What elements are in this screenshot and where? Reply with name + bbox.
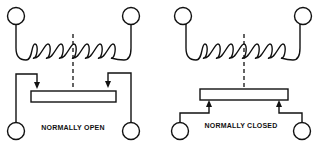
coil-terminal-top-left xyxy=(175,8,192,25)
contact-arrow-left-icon xyxy=(34,82,40,89)
coil-winding xyxy=(186,24,300,60)
relay-contacts-diagram: NORMALLY OPEN NORMALLY CLOSED xyxy=(0,0,319,151)
label-normally-closed: NORMALLY CLOSED xyxy=(204,122,277,129)
coil-terminal-top-right xyxy=(295,8,312,25)
contact-bar xyxy=(200,89,288,100)
normally-closed-relay: NORMALLY CLOSED xyxy=(172,8,312,140)
contact-wire-left xyxy=(16,74,37,122)
normally-open-relay: NORMALLY OPEN xyxy=(8,8,140,140)
coil-terminal-top-left xyxy=(8,8,25,25)
contact-bar xyxy=(31,91,116,102)
contact-wire-right xyxy=(279,106,302,122)
contact-wire-right xyxy=(108,73,131,122)
contact-terminal-bottom-left xyxy=(172,123,189,140)
contact-terminal-bottom-right xyxy=(123,123,140,140)
contact-arrow-right-icon xyxy=(105,81,111,88)
contact-arrow-left-icon xyxy=(206,100,212,107)
contact-arrow-right-icon xyxy=(276,100,282,107)
label-normally-open: NORMALLY OPEN xyxy=(41,124,104,131)
coil-terminal-top-right xyxy=(123,8,140,25)
contact-terminal-bottom-right xyxy=(294,123,311,140)
contact-terminal-bottom-left xyxy=(8,123,25,140)
contact-wire-left xyxy=(180,106,209,122)
